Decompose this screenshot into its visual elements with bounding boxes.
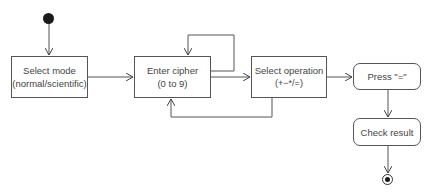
node-check-result: Check result — [353, 118, 421, 146]
node-enter-cipher-label: Enter cipher — [147, 64, 198, 77]
node-select-mode-sublabel: (normal/scientific) — [12, 77, 86, 90]
edge-select-operation-to-enter-cipher — [171, 98, 272, 117]
node-select-operation-sublabel: (+−*/=) — [275, 77, 303, 90]
node-enter-cipher-sublabel: (0 to 9) — [157, 77, 187, 90]
node-select-mode: Select mode (normal/scientific) — [11, 56, 88, 98]
node-select-operation: Select operation (+−*/=) — [251, 56, 327, 98]
edges-layer — [0, 0, 435, 196]
initial-node — [43, 13, 54, 24]
final-node — [382, 174, 393, 185]
node-press-equals-label: Press "=" — [367, 70, 406, 83]
node-enter-cipher: Enter cipher (0 to 9) — [134, 56, 211, 98]
node-select-mode-label: Select mode — [23, 64, 76, 77]
node-select-operation-label: Select operation — [255, 64, 324, 77]
node-press-equals: Press "=" — [353, 63, 421, 90]
node-check-result-label: Check result — [361, 126, 414, 139]
